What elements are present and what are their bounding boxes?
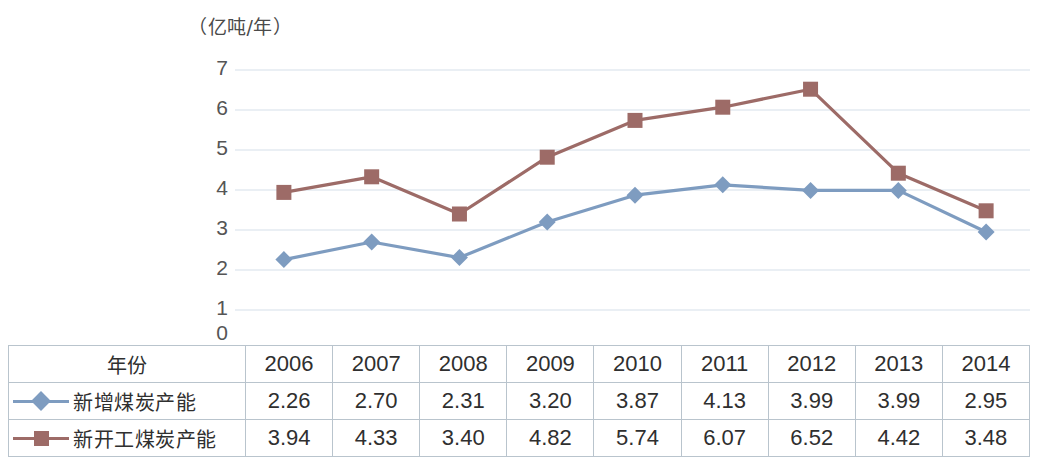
plot-area <box>0 0 1037 345</box>
data-point-2012 <box>803 82 818 97</box>
data-point-2010 <box>628 113 643 128</box>
data-point-2006 <box>276 185 291 200</box>
cell-2011: 6.07 <box>681 420 768 457</box>
cell-2013: 4.42 <box>855 420 942 457</box>
cell-2011: 4.13 <box>681 383 768 420</box>
cell-2009: 4.82 <box>507 420 594 457</box>
data-point-2009 <box>540 150 555 165</box>
cell-2010: 3.87 <box>594 383 681 420</box>
table-row: 新开工煤炭产能3.944.333.404.825.746.076.524.423… <box>9 420 1030 457</box>
data-point-2008 <box>452 207 467 222</box>
data-point-2007 <box>364 169 379 184</box>
cell-2014: 3.48 <box>942 420 1029 457</box>
table-header-year-2013: 2013 <box>855 346 942 383</box>
cell-2010: 5.74 <box>594 420 681 457</box>
table-header-year-2009: 2009 <box>507 346 594 383</box>
data-point-2007 <box>363 234 380 251</box>
data-point-2008 <box>451 249 468 266</box>
data-point-2014 <box>978 224 995 241</box>
legend-marker <box>31 391 51 411</box>
data-point-2012 <box>802 182 819 199</box>
data-point-2014 <box>979 203 994 218</box>
cell-2012: 3.99 <box>768 383 855 420</box>
legend-row-1: 新增煤炭产能 <box>9 383 246 420</box>
square-marker <box>9 424 73 452</box>
data-point-2011 <box>714 176 731 193</box>
table-header-year-2010: 2010 <box>594 346 681 383</box>
table-row: 新增煤炭产能2.262.702.313.203.874.133.993.992.… <box>9 383 1030 420</box>
table-header-year-2007: 2007 <box>333 346 420 383</box>
diamond-marker <box>9 387 73 415</box>
cell-2014: 2.95 <box>942 383 1029 420</box>
table-header-year-2006: 2006 <box>246 346 333 383</box>
data-point-2010 <box>627 187 644 204</box>
cell-2008: 3.40 <box>420 420 507 457</box>
data-point-2013 <box>891 166 906 181</box>
table-header-year-2012: 2012 <box>768 346 855 383</box>
data-point-2011 <box>715 100 730 115</box>
table-header-row: 年份200620072008200920102011201220132014 <box>9 346 1030 383</box>
cell-2009: 3.20 <box>507 383 594 420</box>
series-name-label: 新开工煤炭产能 <box>73 424 243 453</box>
table-header-year-2014: 2014 <box>942 346 1029 383</box>
cell-2013: 3.99 <box>855 383 942 420</box>
cell-2007: 2.70 <box>333 383 420 420</box>
line-chart: （亿吨/年） 76543210 <box>0 0 1037 345</box>
series-name-label: 新增煤炭产能 <box>73 387 243 416</box>
table-header-year-2011: 2011 <box>681 346 768 383</box>
table-header-label: 年份 <box>9 346 246 383</box>
cell-2012: 6.52 <box>768 420 855 457</box>
data-point-2013 <box>890 182 907 199</box>
data-table: 年份200620072008200920102011201220132014新增… <box>8 345 1030 457</box>
cell-2006: 3.94 <box>246 420 333 457</box>
cell-2007: 4.33 <box>333 420 420 457</box>
data-point-2006 <box>275 251 292 268</box>
legend-marker <box>34 431 49 446</box>
chart-page: （亿吨/年） 76543210 年份2006200720082009201020… <box>0 0 1037 459</box>
legend-row-2: 新开工煤炭产能 <box>9 420 246 457</box>
table-header-year-2008: 2008 <box>420 346 507 383</box>
cell-2006: 2.26 <box>246 383 333 420</box>
data-point-2009 <box>539 214 556 231</box>
cell-2008: 2.31 <box>420 383 507 420</box>
